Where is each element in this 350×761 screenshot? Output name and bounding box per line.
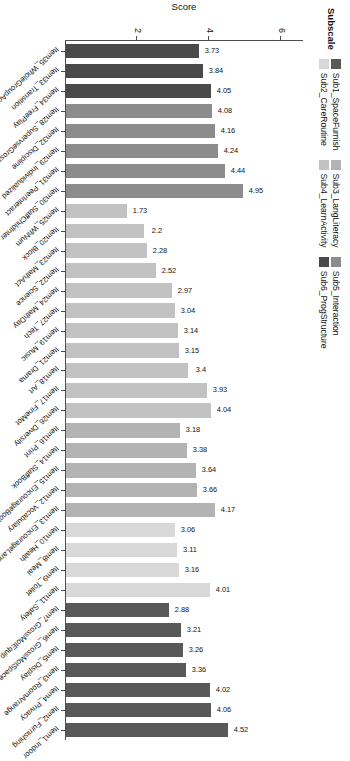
bar[interactable] — [65, 104, 212, 118]
x-axis-tick-slot — [61, 460, 65, 480]
legend-item-sub1[interactable]: Sub1_SpaceFurnish — [331, 59, 341, 151]
x-axis-tick-slot — [61, 301, 65, 321]
bar[interactable] — [65, 583, 210, 597]
bar[interactable] — [65, 363, 188, 377]
bar-value-label: 3.26 — [188, 646, 202, 654]
legend-label-sub4: Sub4_LearnActivity — [319, 174, 329, 248]
x-axis-tick-slot — [61, 281, 65, 301]
bar[interactable] — [65, 563, 179, 577]
bar[interactable] — [65, 323, 178, 337]
bar[interactable] — [65, 124, 215, 138]
x-axis-tick-slot — [61, 101, 65, 121]
x-axis-tick-slot — [61, 680, 65, 700]
bar[interactable] — [65, 423, 180, 437]
x-axis-tick-slot — [61, 620, 65, 640]
bar[interactable] — [65, 303, 175, 317]
bar-slot: 3.16 — [65, 560, 303, 580]
legend-swatch-sub4 — [319, 160, 329, 170]
bar-slot: 4.05 — [65, 81, 303, 101]
bar[interactable] — [65, 84, 211, 98]
legend-item-sub4[interactable]: Sub4_LearnActivity — [319, 160, 329, 248]
x-axis-tick-slot — [61, 660, 65, 680]
x-axis-tick — [61, 610, 65, 611]
x-axis-label-slot: Item29_Individualized — [0, 141, 60, 161]
bar-slot: 3.36 — [65, 660, 303, 680]
legend-item-sub2[interactable]: Sub2_CareRoutine — [319, 59, 329, 151]
x-axis-tick — [61, 690, 65, 691]
bar[interactable] — [65, 523, 175, 537]
x-axis-tick — [61, 510, 65, 511]
x-axis-tick-slot — [61, 720, 65, 740]
x-axis-tick — [61, 331, 65, 332]
x-axis-label-slot: Item11_Safety — [0, 580, 60, 600]
x-axis-label-slot: Item35_WholeGroupAct — [0, 41, 60, 61]
legend-item-sub5[interactable]: Sub5_Interaction — [331, 257, 341, 349]
bar[interactable] — [65, 643, 183, 657]
bar-value-label: 3.73 — [205, 47, 219, 55]
x-axis-label-slot: Item14_StaffBook — [0, 440, 60, 460]
x-axis-tick — [61, 151, 65, 152]
bar-slot: 3.21 — [65, 620, 303, 640]
x-axis-label-slot: Item26_Diversity — [0, 400, 60, 420]
bar-slot: 3.11 — [65, 540, 303, 560]
x-axis-tick — [61, 430, 65, 431]
bar-slot: 2.2 — [65, 221, 303, 241]
bar[interactable] — [65, 224, 144, 238]
x-axis-ticks — [61, 41, 65, 740]
x-axis-label-slot: Item25_WhNum — [0, 201, 60, 221]
bar[interactable] — [65, 443, 187, 457]
bar-value-label: 3.4 — [195, 366, 205, 374]
bar[interactable] — [65, 503, 215, 517]
x-axis-tick-slot — [61, 201, 65, 221]
bar[interactable] — [65, 603, 169, 617]
legend-item-sub3[interactable]: Sub3_LangLiteracy — [331, 160, 341, 248]
x-axis-tick — [61, 650, 65, 651]
bar[interactable] — [65, 204, 127, 218]
x-axis-tick — [61, 710, 65, 711]
x-axis-tick-slot — [61, 380, 65, 400]
bar[interactable] — [65, 283, 172, 297]
bar-slot: 3.73 — [65, 41, 303, 61]
x-axis-tick — [61, 51, 65, 52]
bar-value-label: 3.06 — [181, 526, 195, 534]
bar[interactable] — [65, 343, 179, 357]
bar[interactable] — [65, 703, 211, 717]
bar[interactable] — [65, 243, 147, 257]
x-axis-tick — [61, 370, 65, 371]
bar-value-label: 4.02 — [216, 686, 230, 694]
bar[interactable] — [65, 44, 200, 58]
legend-item-sub6[interactable]: Sub6_ProgStructure — [319, 257, 329, 349]
x-axis-tick — [61, 191, 65, 192]
bar[interactable] — [65, 463, 196, 477]
x-axis-tick-slot — [61, 640, 65, 660]
bar[interactable] — [65, 683, 210, 697]
x-axis-label-slot: Item33_Transition — [0, 61, 60, 81]
bar[interactable] — [65, 164, 225, 178]
bar[interactable] — [65, 144, 218, 158]
x-axis-tick-slot — [61, 161, 65, 181]
bar[interactable] — [65, 623, 181, 637]
bar[interactable] — [65, 64, 203, 78]
bar-value-label: 3.18 — [185, 426, 199, 434]
x-axis-tick-slot — [61, 560, 65, 580]
x-axis-label-slot: Item18_Art — [0, 361, 60, 381]
bar[interactable] — [65, 543, 177, 557]
legend-column-3: Sub5_Interaction Sub6_ProgStructure — [319, 257, 341, 349]
x-axis-category-label: Item1_Indoor — [21, 724, 60, 760]
bar[interactable] — [65, 723, 228, 737]
x-axis-tick-labels: Item35_WholeGroupActItem33_TransitionIte… — [0, 41, 60, 740]
bar-slot: 4.17 — [65, 500, 303, 520]
x-axis-line — [65, 40, 66, 740]
x-axis-tick-slot — [61, 520, 65, 540]
bar[interactable] — [65, 403, 211, 417]
bar-slot: 4.95 — [65, 181, 303, 201]
y-axis-tick — [208, 36, 209, 40]
bar[interactable] — [65, 483, 197, 497]
x-axis-tick — [61, 490, 65, 491]
bar[interactable] — [65, 663, 186, 677]
bar[interactable] — [65, 263, 156, 277]
bar[interactable] — [65, 184, 244, 198]
bar[interactable] — [65, 383, 207, 397]
